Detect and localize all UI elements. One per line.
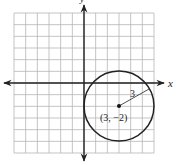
center-point <box>117 104 121 108</box>
coordinate-plane: x y 3 (3, −2) <box>0 0 177 165</box>
radius-label: 3 <box>130 88 135 99</box>
center-label: (3, −2) <box>100 112 127 124</box>
x-axis-label: x <box>167 77 173 89</box>
y-axis-label: y <box>79 0 84 4</box>
